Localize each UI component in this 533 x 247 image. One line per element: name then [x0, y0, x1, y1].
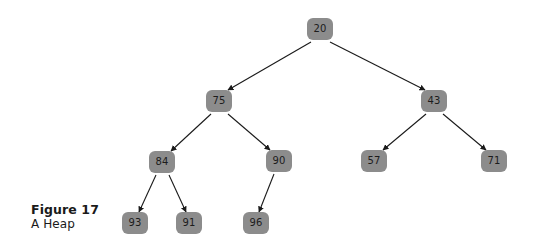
tree-edge-75-84: [171, 114, 211, 151]
tree-node-level1-right: 43: [421, 90, 447, 112]
tree-node-value: 20: [313, 24, 326, 34]
figure-caption-title: Figure 17: [31, 202, 99, 217]
tree-node-level1-left: 75: [206, 90, 232, 112]
tree-edge-75-90: [228, 114, 270, 150]
tree-edge-84-93: [139, 175, 156, 212]
tree-node-level2-d: 71: [481, 150, 507, 172]
tree-edge-20-43: [330, 42, 425, 90]
tree-node-level3-c: 96: [243, 212, 269, 234]
tree-edge-90-96: [259, 174, 274, 212]
tree-node-value: 43: [427, 96, 440, 106]
tree-node-value: 91: [182, 218, 195, 228]
tree-node-value: 96: [249, 218, 262, 228]
tree-node-value: 57: [367, 156, 380, 166]
tree-node-level2-b: 90: [266, 150, 292, 172]
tree-node-value: 75: [212, 96, 225, 106]
figure-caption-subtitle: A Heap: [31, 217, 99, 232]
tree-node-level3-b: 91: [176, 212, 202, 234]
tree-edge-43-71: [443, 114, 486, 150]
tree-edge-84-91: [169, 175, 186, 212]
tree-node-level3-a: 93: [122, 212, 148, 234]
heap-figure: 20 75 43 84 90 57 71 93 91 96 Figure 17 …: [0, 0, 533, 247]
tree-node-value: 71: [487, 156, 500, 166]
tree-node-value: 84: [155, 157, 168, 167]
figure-caption: Figure 17 A Heap: [31, 202, 99, 232]
tree-node-root: 20: [307, 18, 333, 40]
tree-node-level2-a: 84: [149, 151, 175, 173]
tree-node-level2-c: 57: [361, 150, 387, 172]
tree-node-value: 90: [272, 156, 285, 166]
tree-edge-43-57: [383, 114, 426, 150]
tree-edge-20-75: [228, 42, 311, 90]
tree-node-value: 93: [128, 218, 141, 228]
